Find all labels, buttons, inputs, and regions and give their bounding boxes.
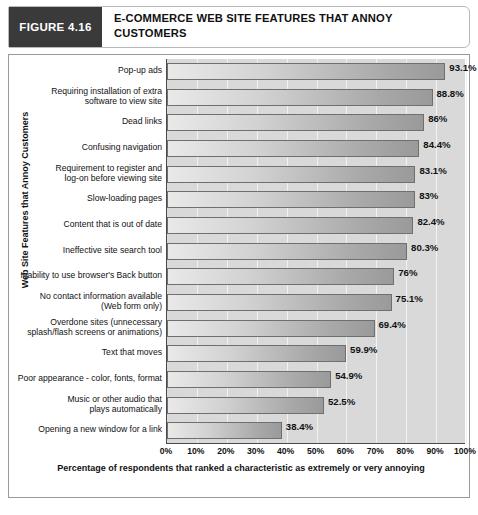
bar-row: Poor appearance - color, fonts, format54… [167, 368, 465, 394]
category-label: Confusing navigation [0, 142, 162, 152]
bar-row: Text that moves59.9% [167, 342, 465, 368]
bar-value-label: 54.9% [335, 370, 362, 381]
bar-value-label: 69.4% [379, 319, 406, 330]
bar [167, 243, 407, 260]
figure-title: E-COMMERCE WEB SITE FEATURES THAT ANNOY … [114, 11, 463, 40]
bar-row: Content that is out of date82.4% [167, 214, 465, 240]
x-tick-label: 10% [187, 446, 204, 456]
x-tick-label: 80% [397, 446, 414, 456]
category-label: Requiring installation of extra software… [0, 86, 162, 107]
category-label: Music or other audio that plays automati… [0, 394, 162, 415]
bar [167, 217, 413, 234]
bar [167, 114, 424, 131]
bar-value-label: 88.8% [437, 88, 464, 99]
bar [167, 89, 433, 106]
x-tick-label: 40% [277, 446, 294, 456]
bar-value-label: 84.4% [423, 139, 450, 150]
category-label: Opening a new window for a link [0, 424, 162, 434]
bar-row: Opening a new window for a link38.4% [167, 419, 465, 445]
bar-value-label: 82.4% [417, 216, 444, 227]
bar-value-label: 76% [398, 267, 417, 278]
bar-value-label: 38.4% [286, 421, 313, 432]
bar [167, 294, 392, 311]
category-label: Ineffective site search tool [0, 245, 162, 255]
figure-header: FIGURE 4.16 E-COMMERCE WEB SITE FEATURES… [8, 6, 470, 48]
category-label: Overdone sites (unnecessary splash/flash… [0, 317, 162, 338]
x-tick-label: 90% [426, 446, 443, 456]
category-label: Content that is out of date [0, 219, 162, 229]
bar [167, 140, 419, 157]
chart-area: Web Site Features that Annoy Customers P… [8, 54, 470, 498]
category-label: Pop-up ads [0, 65, 162, 75]
category-label: Dead links [0, 116, 162, 126]
category-label: Slow-loading pages [0, 193, 162, 203]
bar-value-label: 83% [419, 190, 438, 201]
category-label: Poor appearance - color, fonts, format [0, 373, 162, 383]
x-axis-title: Percentage of respondents that ranked a … [19, 463, 463, 473]
x-tick-label: 0% [160, 446, 172, 456]
category-label: No contact information available (Web fo… [0, 291, 162, 312]
bar-value-label: 75.1% [396, 293, 423, 304]
x-tick-label: 50% [307, 446, 324, 456]
figure-number-badge: FIGURE 4.16 [9, 7, 102, 47]
category-label: Text that moves [0, 347, 162, 357]
bar [167, 422, 282, 439]
bar-row: Music or other audio that plays automati… [167, 394, 465, 420]
bar-row: No contact information available (Web fo… [167, 291, 465, 317]
bar [167, 397, 324, 414]
x-tick-label: 70% [367, 446, 384, 456]
bar [167, 268, 394, 285]
bar-value-label: 83.1% [419, 165, 446, 176]
bar [167, 166, 415, 183]
bar-rows: Pop-up ads93.1%Requiring installation of… [167, 59, 465, 443]
x-tick-label: 30% [247, 446, 264, 456]
x-tick-label: 20% [217, 446, 234, 456]
bar [167, 371, 331, 388]
plot-area: Pop-up ads93.1%Requiring installation of… [166, 59, 465, 444]
bar-row: Confusing navigation84.4% [167, 137, 465, 163]
bar-value-label: 86% [428, 113, 447, 124]
bar-value-label: 80.3% [411, 242, 438, 253]
bar-row: Pop-up ads93.1% [167, 60, 465, 86]
bar-row: Inability to use browser's Back button76… [167, 265, 465, 291]
bar-value-label: 52.5% [328, 396, 355, 407]
bar [167, 320, 375, 337]
bar-row: Overdone sites (unnecessary splash/flash… [167, 317, 465, 343]
category-label: Inability to use browser's Back button [0, 270, 162, 280]
bar [167, 63, 445, 80]
bar-row: Requiring installation of extra software… [167, 86, 465, 112]
gridline [466, 59, 467, 443]
x-axis-ticks: 0%10%20%30%40%50%60%70%80%90%100% [166, 446, 465, 460]
bar [167, 345, 346, 362]
x-tick-label: 100% [454, 446, 476, 456]
bar-row: Ineffective site search tool80.3% [167, 240, 465, 266]
bar [167, 191, 415, 208]
bar-row: Dead links86% [167, 111, 465, 137]
bar-row: Requirement to register and log-on befor… [167, 163, 465, 189]
x-tick-label: 60% [337, 446, 354, 456]
bar-row: Slow-loading pages83% [167, 188, 465, 214]
figure-container: FIGURE 4.16 E-COMMERCE WEB SITE FEATURES… [0, 0, 478, 515]
bar-value-label: 93.1% [449, 62, 476, 73]
source-line [10, 503, 470, 513]
bar-value-label: 59.9% [350, 344, 377, 355]
category-label: Requirement to register and log-on befor… [0, 163, 162, 184]
